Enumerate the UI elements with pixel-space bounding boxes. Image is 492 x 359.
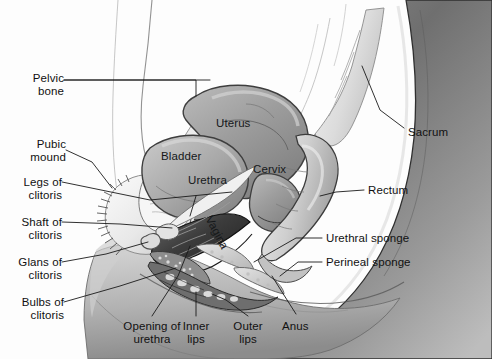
anatomy-illustration: [0, 0, 492, 359]
label-urethral-sponge: Urethral sponge: [326, 232, 438, 245]
label-anus: Anus: [282, 320, 332, 333]
label-rectum: Rectum: [368, 184, 432, 197]
sacrum-bone: [312, 8, 384, 149]
label-urethra: Urethra: [188, 174, 244, 187]
label-pelvic-bone: Pelvic bone: [12, 72, 64, 97]
anatomy-diagram: Pelvic bone Pubic mound Legs of clitoris…: [0, 0, 492, 359]
label-glans-of-clitoris: Glans of clitoris: [8, 256, 62, 281]
label-cervix: Cervix: [253, 163, 301, 176]
label-uterus: Uterus: [216, 117, 272, 130]
label-sacrum: Sacrum: [408, 126, 472, 139]
label-perineal-sponge: Perineal sponge: [326, 256, 438, 269]
label-legs-of-clitoris: Legs of clitoris: [10, 176, 62, 201]
label-bladder: Bladder: [161, 150, 219, 163]
label-shaft-of-clitoris: Shaft of clitoris: [10, 216, 62, 241]
label-outer-lips: Outer lips: [224, 320, 272, 345]
label-pubic-mound: Pubic mound: [12, 138, 66, 163]
label-inner-lips: Inner lips: [172, 320, 220, 345]
label-bulbs-of-clitoris: Bulbs of clitoris: [8, 296, 64, 321]
